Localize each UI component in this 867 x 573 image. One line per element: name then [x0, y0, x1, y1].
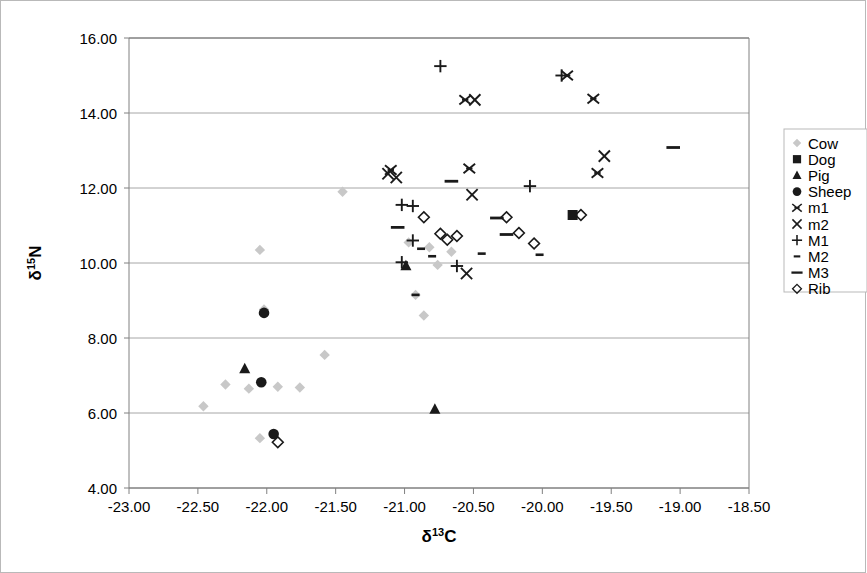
legend-label-pig: Pig: [808, 167, 830, 184]
data-point: [464, 164, 476, 173]
legend-marker-sheep: [793, 187, 802, 196]
series-pig: [239, 260, 440, 414]
legend-label-rib: Rib: [808, 280, 831, 297]
y-tick-label: 16.00: [79, 30, 117, 47]
x-tick-label: -23.00: [108, 498, 151, 515]
x-tick-label: -20.50: [452, 498, 495, 515]
x-tick-label: -22.50: [177, 498, 220, 515]
data-point: [396, 199, 408, 211]
y-axis-title: δ15N: [25, 246, 45, 281]
x-tick-label: -19.00: [659, 498, 702, 515]
legend-label-m1: m1: [808, 199, 829, 216]
data-point: [259, 308, 270, 319]
data-point: [198, 401, 208, 411]
data-point: [599, 151, 610, 162]
data-point: [424, 242, 434, 252]
legend-label-m2: m2: [808, 216, 829, 233]
data-point: [273, 382, 283, 392]
data-point: [255, 245, 265, 255]
data-point: [407, 200, 419, 212]
data-point: [434, 60, 446, 72]
y-tick-label: 14.00: [79, 105, 117, 122]
data-point: [592, 168, 604, 177]
data-point: [295, 382, 305, 392]
x-tick-label: -22.00: [246, 498, 289, 515]
data-point: [432, 260, 442, 270]
data-point: [419, 310, 429, 320]
series-m3: [391, 148, 680, 235]
y-tick-label: 4.00: [88, 480, 117, 497]
series-m2: [412, 249, 544, 295]
legend: CowDogPigSheepm1m2M1M2M3Rib: [784, 129, 867, 297]
data-point: [466, 189, 477, 200]
series-cow: [198, 187, 456, 444]
data-point: [319, 350, 329, 360]
series-m1: [385, 71, 603, 178]
legend-label-sheep: Sheep: [808, 183, 851, 200]
data-point: [529, 238, 540, 249]
y-tick-label: 8.00: [88, 330, 117, 347]
legend-label-dog: Dog: [808, 151, 836, 168]
data-point: [555, 69, 567, 81]
data-point: [418, 212, 429, 223]
data-point: [255, 433, 265, 443]
data-point: [469, 94, 480, 105]
scatter-plot: 4.006.008.0010.0012.0014.0016.00-23.00-2…: [1, 1, 867, 573]
data-point: [514, 228, 525, 239]
series-m1: [396, 60, 568, 272]
data-point: [524, 180, 536, 192]
data-point: [239, 363, 250, 374]
x-tick-label: -19.50: [590, 498, 633, 515]
x-tick-label: -20.00: [521, 498, 564, 515]
series-sheep: [256, 308, 279, 440]
data-point: [451, 260, 463, 272]
data-point: [244, 383, 254, 393]
data-point: [461, 268, 472, 279]
legend-marker-dog: [793, 155, 801, 163]
legend-label-m2: M2: [808, 248, 829, 265]
data-point: [220, 379, 230, 389]
legend-label-m3: M3: [808, 264, 829, 281]
data-point: [256, 377, 267, 388]
series-m2: [382, 94, 610, 279]
x-axis-title: δ13C: [422, 526, 457, 546]
legend-label-cow: Cow: [808, 135, 838, 152]
data-point: [588, 94, 600, 103]
data-point: [459, 95, 471, 104]
data-point: [429, 403, 440, 414]
y-tick-label: 12.00: [79, 180, 117, 197]
data-point: [446, 247, 456, 257]
x-tick-label: -21.50: [314, 498, 357, 515]
x-tick-label: -21.00: [383, 498, 426, 515]
x-tick-label: -18.50: [728, 498, 771, 515]
y-tick-label: 6.00: [88, 405, 117, 422]
y-tick-label: 10.00: [79, 255, 117, 272]
legend-label-m1: M1: [808, 232, 829, 249]
